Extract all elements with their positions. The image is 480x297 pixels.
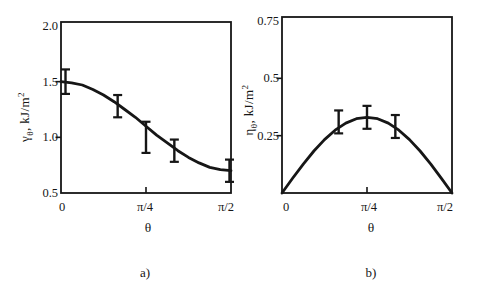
two-panel-figure: 2.0 1.5 1.0 0.5 0 π/4 π/2 θ γθ, kJ/m2 a)… <box>0 0 480 297</box>
x-tick-label: π/2 <box>425 199 465 215</box>
panel-label-a: a) <box>125 265 165 281</box>
y-axis-symbol-subscript: θ <box>249 124 259 129</box>
y-axis-units-exponent: 2 <box>16 92 26 97</box>
plot-b-canvas <box>270 5 464 205</box>
y-tick-label: 2.0 <box>24 18 58 34</box>
y-axis-title: γθ, kJ/m2 <box>12 52 30 182</box>
x-tick-label: 0 <box>42 199 82 215</box>
y-axis-units: , kJ/m <box>17 97 32 131</box>
x-tick-label: π/4 <box>349 199 389 215</box>
x-tick-label: π/4 <box>125 199 165 215</box>
y-axis-units-exponent: 2 <box>240 85 250 90</box>
y-tick-label: 0.75 <box>245 13 279 29</box>
x-axis-title: θ <box>128 220 168 236</box>
y-axis-symbol: γ <box>17 136 32 142</box>
plot-a-canvas <box>49 10 243 205</box>
x-axis-title: θ <box>351 220 391 236</box>
y-axis-title: ηθ, kJ/m2 <box>236 45 254 175</box>
y-axis-units: , kJ/m <box>241 89 256 123</box>
panel-label-b: b) <box>351 265 391 281</box>
x-tick-label: 0 <box>266 199 306 215</box>
y-axis-symbol-subscript: θ <box>25 131 35 136</box>
y-axis-symbol: η <box>241 128 256 135</box>
x-tick-label: π/2 <box>206 199 246 215</box>
